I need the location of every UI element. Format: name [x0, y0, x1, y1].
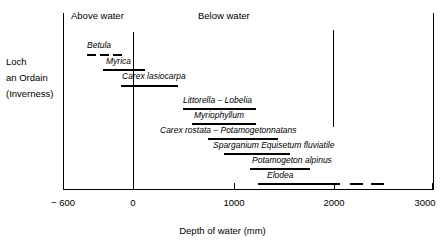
species-label-carex-rostata-potamogetonnatans: Carex rostata – Potamogetonnatans — [160, 125, 297, 135]
x-tick-minus600 — [63, 183, 64, 190]
species-bar-carex-lasiocarpa — [121, 85, 178, 87]
left-axis-line — [63, 13, 64, 190]
x-tick-label-minus600: − 600 — [38, 197, 88, 208]
header-above-water: Above water — [71, 10, 124, 21]
x-tick-3000 — [432, 183, 433, 190]
site-label-line-3: (Inverness) — [6, 88, 54, 99]
species-label-sparganium-equisetum-fluviatile: Sparganium Equisetum fluviatile — [213, 140, 334, 150]
x-axis-baseline — [63, 189, 434, 190]
x-tick-1000 — [234, 183, 235, 190]
deep-limit-marker-line — [333, 30, 334, 127]
x-tick-2000 — [334, 183, 335, 190]
water-surface-line — [133, 32, 134, 190]
x-tick-label-3000: 3000 — [405, 197, 445, 208]
right-border-line — [433, 13, 434, 190]
species-label-myrica: Myrica — [106, 56, 131, 66]
species-label-betula: Betula — [87, 40, 111, 50]
x-tick-0 — [133, 183, 134, 190]
species-label-elodea: Elodea — [267, 170, 293, 180]
x-tick-label-2000: 2000 — [310, 197, 358, 208]
species-label-potamogeton-alpinus: Potamogeton alpinus — [252, 155, 332, 165]
species-label-myriophyllum: Myriophyllum — [194, 110, 244, 120]
species-label-littorella-lobelia: Littorella – Lobelia — [183, 95, 252, 105]
zonation-chart: Loch an Ordain (Inverness) Above water B… — [0, 0, 445, 247]
header-below-water: Below water — [198, 10, 250, 21]
site-label-line-1: Loch — [6, 56, 27, 67]
x-tick-label-0: 0 — [113, 197, 153, 208]
x-tick-label-1000: 1000 — [210, 197, 258, 208]
x-axis-title: Depth of water (mm) — [0, 225, 445, 236]
site-label-line-2: an Ordain — [6, 72, 48, 83]
species-label-carex-lasiocarpa: Carex lasiocarpa — [122, 71, 186, 81]
